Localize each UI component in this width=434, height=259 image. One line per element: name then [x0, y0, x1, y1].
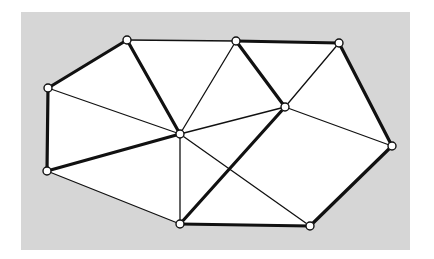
node-F	[281, 103, 289, 111]
bold-edge-H-D	[47, 88, 48, 171]
node-D	[44, 84, 52, 92]
bold-edge-J-I	[180, 224, 310, 226]
node-J	[306, 222, 314, 230]
graph-diagram	[0, 0, 434, 259]
node-E	[176, 130, 184, 138]
node-B	[232, 37, 240, 45]
node-G	[388, 142, 396, 150]
node-I	[176, 220, 184, 228]
node-A	[123, 36, 131, 44]
node-H	[43, 167, 51, 175]
bold-edge-B-C	[236, 41, 339, 43]
node-C	[335, 39, 343, 47]
